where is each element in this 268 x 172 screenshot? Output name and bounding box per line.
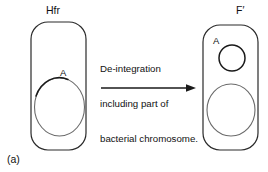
hfr-cell-label: Hfr <box>46 5 60 16</box>
process-description-text: De-integration including part of bacteri… <box>100 40 204 168</box>
hfr-integrated-f-arc <box>36 78 68 96</box>
fprime-chromosome-oval <box>207 84 255 136</box>
figure-de-integration-diagram: Hfr A F′ A De-integration including part… <box>0 0 268 172</box>
hfr-marker-a-label: A <box>60 67 66 78</box>
hfr-cell-outline <box>31 22 86 150</box>
fprime-marker-a-label: A <box>213 35 219 46</box>
process-text-line-3: bacterial chromosome. <box>100 133 204 145</box>
fprime-plasmid-circle <box>219 45 245 71</box>
figure-caption: (a) <box>7 154 20 165</box>
fprime-cell-outline <box>203 25 258 150</box>
process-text-line-1: De-integration <box>100 63 204 75</box>
hfr-chromosome-oval <box>35 78 85 136</box>
fprime-cell-label: F′ <box>236 5 244 16</box>
process-text-line-2: including part of <box>100 98 204 110</box>
